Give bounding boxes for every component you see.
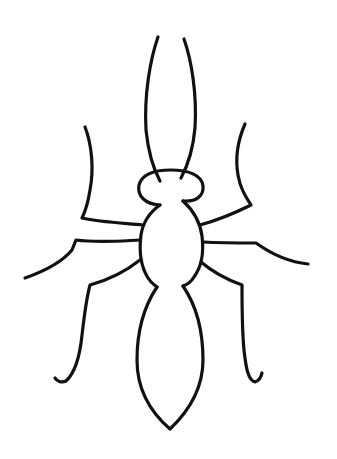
right-front-leg [200,124,251,225]
left-front-leg [82,127,143,225]
head [139,170,203,205]
ant-illustration [0,0,337,459]
left-hind-leg [55,260,140,382]
thorax [140,201,203,287]
right-middle-leg [203,242,308,264]
abdomen [137,286,203,429]
right-hind-leg [201,262,262,382]
left-antenna [146,37,160,181]
ant-drawing [0,0,337,459]
right-antenna [181,39,195,178]
